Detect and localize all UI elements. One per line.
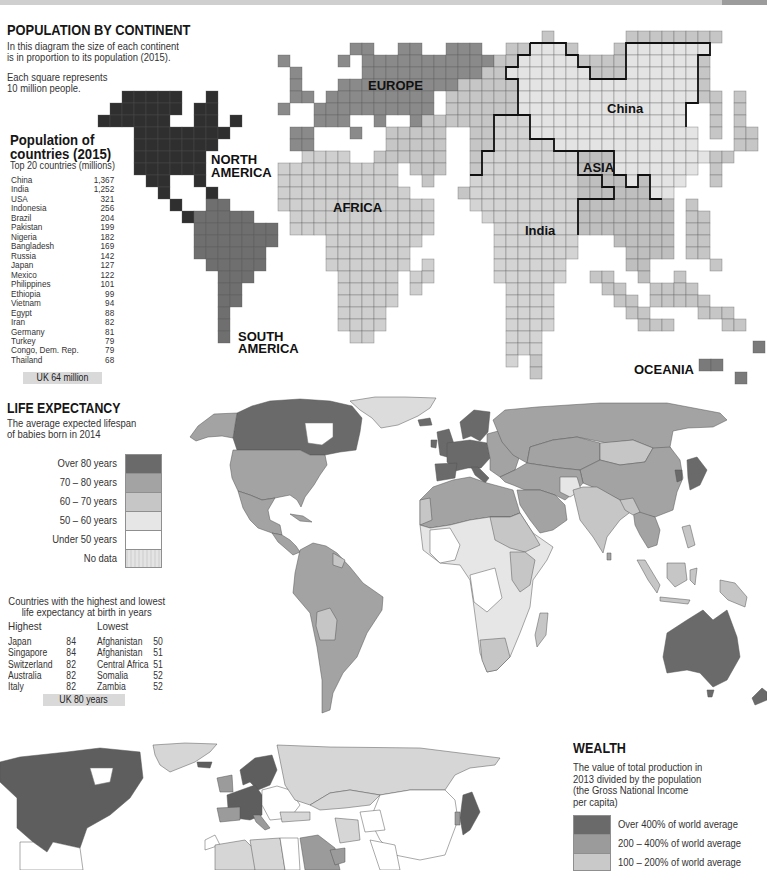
population-square-na [110,103,122,115]
population-square-as [470,79,482,91]
population-square-eu [446,79,458,91]
population-square-in [566,187,578,199]
population-square-in [530,343,542,355]
population-square-cn [530,79,542,91]
population-square-cn [638,43,650,55]
population-square-as [434,163,446,175]
population-square-se [638,211,650,223]
population-square-cn [518,79,530,91]
population-square-af [338,235,350,247]
population-square-af [326,223,338,235]
population-square-cn [590,127,602,139]
population-square-in [518,247,530,259]
population-square-af [410,211,422,223]
population-square-af [422,211,434,223]
population-square-eu [290,67,302,79]
uk-life-text: UK 80 years [60,694,108,706]
population-square-af [386,259,398,271]
population-square-sa [266,235,278,247]
population-square-cn [638,151,650,163]
population-square-cn [650,67,662,79]
life-expectancy-map [165,375,767,720]
population-square-as [734,319,746,331]
population-square-in [518,175,530,187]
population-square-se [590,211,602,223]
population-square-cn [638,67,650,79]
population-square-in [518,115,530,127]
population-square-in [542,187,554,199]
wealth-legend-label: 100 – 200% of world average [618,857,741,869]
population-square-se [650,199,662,211]
population-square-cn [662,103,674,115]
population-square-cn [650,175,662,187]
population-square-cn [650,115,662,127]
legend-swatch-a60 [125,492,162,512]
population-square-na [110,115,122,127]
population-square-as [434,151,446,163]
population-square-af [362,319,374,331]
population-cartogram [0,0,767,395]
population-square-cn [542,79,554,91]
population-square-af [398,187,410,199]
population-square-as [734,103,746,115]
population-square-cn [650,139,662,151]
population-square-cn [530,43,542,55]
population-square-af [374,163,386,175]
population-square-in [470,175,482,187]
population-square-af [350,163,362,175]
population-square-cn [518,55,530,67]
population-square-eu [410,55,422,67]
population-square-in [554,259,566,271]
label-south-america-2: AMERICA [238,342,299,355]
map-region-central-america [272,533,300,555]
population-square-as [482,115,494,127]
population-square-eu [422,103,434,115]
population-square-se [602,175,614,187]
population-square-af [314,199,326,211]
population-square-na [158,151,170,163]
legend-swatch-a70 [125,473,162,493]
legend-swatch-a50 [125,511,162,531]
population-square-se [638,199,650,211]
population-square-na [146,139,158,151]
population-square-in [482,187,494,199]
population-square-se [578,175,590,187]
population-square-as [386,151,398,163]
population-square-eu [446,55,458,67]
population-square-af [338,223,350,235]
population-square-se [650,211,662,223]
population-square-as [470,151,482,163]
map-region-western-sahara [420,498,432,525]
population-square-af [350,331,362,343]
population-square-cn [590,139,602,151]
population-square-cn [506,67,518,79]
population-square-af [314,223,326,235]
population-square-eu [350,127,362,139]
population-square-cn [650,55,662,67]
population-square-cn [554,127,566,139]
population-square-af [374,271,386,283]
population-square-in [542,211,554,223]
map-region-south-korea [455,812,460,825]
population-square-as [422,175,434,187]
population-square-as [530,355,542,367]
population-square-cn [542,115,554,127]
map-region-new-guinea [720,580,747,607]
population-square-cn [662,43,674,55]
population-square-in [530,163,542,175]
population-square-as [590,271,602,283]
population-square-in [518,295,530,307]
population-square-as [470,139,482,151]
population-square-af [290,187,302,199]
population-square-na [134,103,146,115]
population-square-af [350,283,362,295]
population-square-eu [338,55,350,67]
population-square-in [506,175,518,187]
population-square-as [674,271,686,283]
population-square-na [134,163,146,175]
population-square-af [326,151,338,163]
population-square-af [350,259,362,271]
population-square-cn [650,103,662,115]
population-square-in [494,163,506,175]
population-square-as [614,295,626,307]
